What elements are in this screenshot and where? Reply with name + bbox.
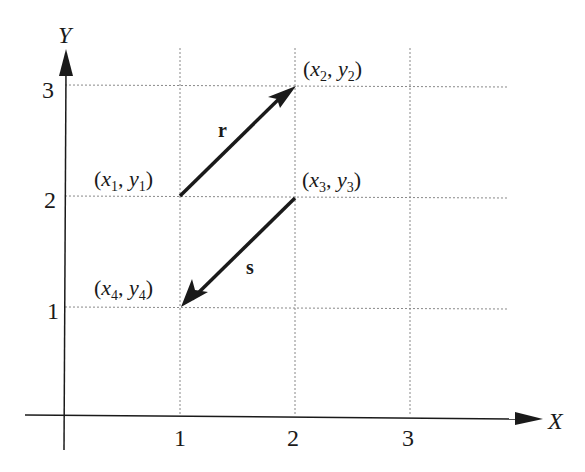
- y-tick-3: 3: [42, 77, 54, 103]
- y-axis-label: Y: [58, 22, 74, 48]
- x-tick-2: 2: [287, 425, 299, 451]
- x-tick-3: 3: [402, 425, 414, 451]
- gridline-y-3: [65, 85, 508, 87]
- x-axis-label: X: [547, 408, 564, 434]
- x-tick-labels: 1 2 3: [174, 425, 414, 451]
- point-label-p1: (x1, y1): [94, 166, 153, 194]
- y-axis: Y: [58, 22, 74, 450]
- svg-text:(x4, y4): (x4, y4): [94, 275, 153, 303]
- svg-text:(x2, y2): (x2, y2): [303, 56, 362, 84]
- x-axis-arrow-icon: [515, 412, 543, 425]
- svg-text:(x3, y3): (x3, y3): [302, 167, 361, 195]
- point-label-p3: (x3, y3): [302, 167, 361, 195]
- y-tick-2: 2: [44, 187, 56, 213]
- vector-s-label: s: [246, 256, 254, 278]
- gridline-y-1: [65, 307, 508, 309]
- vector-s: s: [181, 198, 295, 307]
- vector-r-label: r: [218, 119, 227, 141]
- svg-text:(x1, y1): (x1, y1): [94, 166, 153, 194]
- vector-r: r: [180, 86, 296, 196]
- grid: [65, 48, 508, 416]
- point-label-p2: (x2, y2): [303, 56, 362, 84]
- y-axis-arrow-icon: [59, 49, 73, 76]
- gridline-y-2: [65, 196, 508, 198]
- vector-diagram: X Y 1 2 3 3 2 1 r s (x1, y1) (x2, y2) (x…: [0, 0, 585, 472]
- y-tick-labels: 3 2 1: [42, 77, 59, 324]
- point-label-p4: (x4, y4): [94, 275, 153, 303]
- vector-s-arrowhead-icon: [181, 279, 208, 307]
- x-tick-1: 1: [174, 425, 186, 451]
- y-tick-1: 1: [47, 298, 59, 324]
